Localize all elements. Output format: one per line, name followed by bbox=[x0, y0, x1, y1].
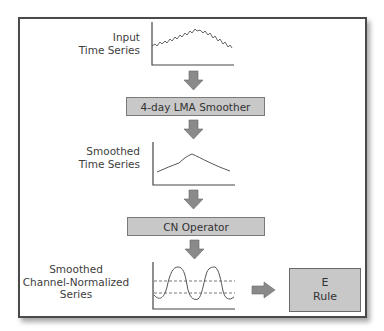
label-line: Smoothed bbox=[50, 145, 140, 158]
right-arrow-icon bbox=[252, 282, 276, 298]
lma-smoother-box: 4-day LMA Smoother bbox=[126, 97, 265, 116]
label-line: Series bbox=[20, 288, 132, 301]
label-line: Time Series bbox=[60, 44, 140, 57]
label-line: Time Series bbox=[50, 158, 140, 171]
lma-smoother-label: 4-day LMA Smoother bbox=[141, 101, 251, 113]
down-arrow-icon bbox=[185, 240, 205, 260]
label-line: Input bbox=[60, 31, 140, 44]
e-rule-line2: Rule bbox=[313, 290, 337, 304]
cn-series-label: Smoothed Channel-Normalized Series bbox=[20, 263, 132, 301]
cn-operator-box: CN Operator bbox=[127, 217, 265, 236]
cn-operator-label: CN Operator bbox=[163, 221, 229, 233]
input-series-label: Input Time Series bbox=[60, 31, 140, 56]
smoothed-series-label: Smoothed Time Series bbox=[50, 145, 140, 170]
down-arrow-icon bbox=[184, 120, 204, 140]
e-rule-box: E Rule bbox=[289, 268, 361, 312]
label-line: Channel-Normalized bbox=[20, 276, 132, 289]
down-arrow-icon bbox=[184, 71, 204, 91]
label-line: Smoothed bbox=[20, 263, 132, 276]
cn-series-plot bbox=[151, 261, 241, 313]
input-series-plot bbox=[150, 20, 240, 70]
smoothed-series-plot bbox=[151, 141, 241, 189]
e-rule-line1: E bbox=[322, 276, 329, 290]
down-arrow-icon bbox=[184, 190, 204, 210]
